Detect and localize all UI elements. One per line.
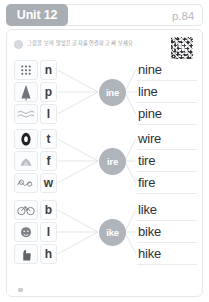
picture-column — [14, 200, 38, 266]
letter-tile[interactable]: b — [40, 200, 57, 220]
word-item[interactable]: wire — [137, 128, 197, 150]
rime-circle[interactable]: ine — [99, 79, 126, 106]
page-number: p.84 — [172, 5, 194, 27]
rime-circle[interactable]: ike — [99, 219, 126, 246]
letter-tile[interactable]: f — [40, 151, 57, 171]
letter-column: t f w — [40, 129, 57, 195]
word-item[interactable]: hike — [137, 243, 197, 265]
wire-icon[interactable] — [14, 173, 38, 193]
rime-circle[interactable]: ire — [99, 148, 126, 175]
fire-icon[interactable] — [14, 151, 38, 171]
word-item[interactable]: bike — [137, 221, 197, 243]
letter-tile[interactable]: h — [40, 244, 57, 264]
word-family-group: b l h ike like bike hike — [7, 200, 202, 268]
word-item[interactable]: nine — [137, 59, 197, 81]
letter-column: n p l — [40, 60, 57, 126]
unit-badge: Unit 12 — [6, 4, 68, 26]
instruction-row: 그림을 보며 알맞은 글자를 연결하고 써 보세요. — [14, 35, 196, 61]
picture-column — [14, 129, 38, 195]
word-family-group: n p l ine nine line pine — [7, 60, 202, 128]
word-column: nine line pine — [137, 59, 197, 125]
word-item[interactable]: line — [137, 81, 197, 103]
like-face-icon[interactable] — [14, 222, 38, 242]
word-column: wire tire fire — [137, 128, 197, 194]
word-family-group: t f w ire wire tire fire — [7, 129, 202, 197]
letter-tile[interactable]: l — [40, 222, 57, 242]
word-item[interactable]: tire — [137, 150, 197, 172]
hike-thumb-icon[interactable] — [14, 244, 38, 264]
page-header: Unit 12 p.84 — [6, 4, 203, 26]
word-item[interactable]: pine — [137, 103, 197, 125]
word-item[interactable]: fire — [137, 172, 197, 194]
circle-bullet-icon — [14, 40, 23, 49]
instruction-text: 그림을 보며 알맞은 글자를 연결하고 써 보세요. — [27, 38, 135, 48]
letter-tile[interactable]: w — [40, 173, 57, 193]
word-column: like bike hike — [137, 199, 197, 265]
picture-column — [14, 60, 38, 126]
letter-tile[interactable]: t — [40, 129, 57, 149]
bike-icon[interactable] — [14, 200, 38, 220]
pine-tree-icon[interactable] — [14, 82, 38, 102]
qr-code-icon[interactable] — [171, 37, 193, 59]
letter-column: b l h — [40, 200, 57, 266]
letter-tile[interactable]: p — [40, 82, 57, 102]
tire-icon[interactable] — [14, 129, 38, 149]
page-corner-mark-icon — [18, 288, 23, 292]
worksheet-card: 그림을 보며 알맞은 글자를 연결하고 써 보세요. — [6, 29, 203, 297]
letter-tile[interactable]: l — [40, 104, 57, 124]
nine-dots-icon[interactable] — [14, 60, 38, 80]
word-item[interactable]: like — [137, 199, 197, 221]
line-wave-icon[interactable] — [14, 104, 38, 124]
letter-tile[interactable]: n — [40, 60, 57, 80]
